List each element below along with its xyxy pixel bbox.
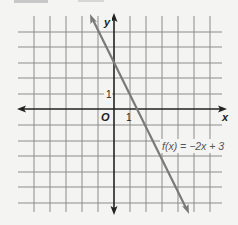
function-label: f(x) = −2x + 3 <box>162 140 224 152</box>
x-tick-label: 1 <box>126 112 132 123</box>
x-axis-label: x <box>221 111 229 123</box>
origin-label: O <box>101 111 110 123</box>
grid-lines <box>18 16 222 212</box>
x-axis <box>17 106 227 113</box>
y-tick-label: 1 <box>106 89 112 100</box>
clipped-text-fragment <box>78 0 104 2</box>
coordinate-graph: f(x) = −2x + 3 y x O 1 1 <box>0 0 238 225</box>
y-axis <box>111 13 118 215</box>
clipped-text-fragment <box>14 0 48 3</box>
y-axis-label: y <box>103 16 111 28</box>
